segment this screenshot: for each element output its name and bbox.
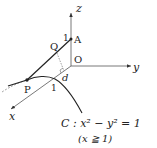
point-a-value-label: 1	[63, 33, 69, 43]
origin-label: O	[74, 54, 82, 65]
point-q-label: Q	[50, 41, 58, 52]
z-axis-label: z	[75, 2, 82, 15]
curve-equation-prefix: C :	[61, 117, 80, 130]
point-p-label: P	[24, 84, 31, 95]
x-tick-1-label: 1	[51, 83, 57, 93]
point-a-label: A	[73, 34, 82, 45]
curve-c	[27, 76, 82, 113]
point-p	[25, 78, 28, 81]
x-axis-label: x	[9, 110, 16, 123]
point-a	[70, 38, 73, 41]
diagram-canvas: z y x O 1 A Q P d 1 C : x² − y² = 1 (x ≧…	[0, 0, 157, 148]
curve-condition: (x ≧ 1)	[78, 133, 112, 144]
y-axis-label: y	[132, 61, 140, 74]
curve-equation-body: x² − y² = 1	[80, 117, 141, 130]
distance-d-label: d	[62, 72, 68, 83]
curve-equation: C : x² − y² = 1	[61, 117, 141, 130]
